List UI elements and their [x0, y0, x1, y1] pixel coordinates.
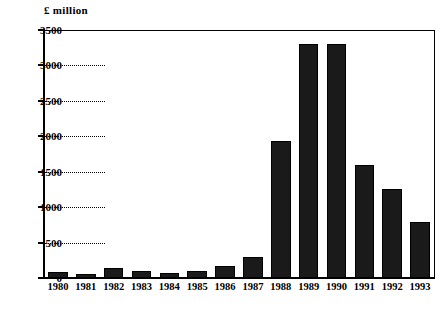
- bar-1986: [215, 266, 235, 278]
- x-tick-label-1992: 1992: [378, 281, 406, 292]
- bar-slot: [215, 30, 235, 278]
- bar-1991: [355, 165, 375, 278]
- bar-1988: [271, 141, 291, 278]
- bar-slot: [76, 30, 96, 278]
- x-tick-label-1980: 1980: [44, 281, 72, 292]
- x-tick-label-1988: 1988: [267, 281, 295, 292]
- bar-1984: [160, 273, 180, 278]
- bar-1983: [132, 271, 152, 278]
- x-tick-label-1989: 1989: [295, 281, 323, 292]
- x-tick-label-1982: 1982: [100, 281, 128, 292]
- x-tick-label-1987: 1987: [239, 281, 267, 292]
- bar-slot: [299, 30, 319, 278]
- y-axis-unit-label: £ million: [44, 4, 88, 16]
- x-axis-labels: 1980198119821983198419851986198719881989…: [44, 281, 434, 301]
- bar-1990: [327, 44, 347, 278]
- bars-layer: [44, 30, 434, 278]
- x-tick-label-1981: 1981: [72, 281, 100, 292]
- bar-1981: [76, 274, 96, 278]
- x-tick-label-1993: 1993: [406, 281, 434, 292]
- bar-slot: [355, 30, 375, 278]
- bar-1985: [187, 271, 207, 278]
- bar-1989: [299, 44, 319, 278]
- bar-1987: [243, 257, 263, 278]
- bar-slot: [187, 30, 207, 278]
- bar-1993: [410, 222, 430, 278]
- bar-1992: [382, 189, 402, 278]
- bar-slot: [104, 30, 124, 278]
- x-tick-label-1983: 1983: [128, 281, 156, 292]
- bar-1982: [104, 268, 124, 278]
- x-tick-label-1991: 1991: [350, 281, 378, 292]
- bar-slot: [271, 30, 291, 278]
- bar-slot: [132, 30, 152, 278]
- bar-slot: [410, 30, 430, 278]
- x-tick-label-1990: 1990: [323, 281, 351, 292]
- x-tick-label-1985: 1985: [183, 281, 211, 292]
- bar-slot: [382, 30, 402, 278]
- bar-1980: [48, 272, 68, 278]
- x-tick-label-1984: 1984: [155, 281, 183, 292]
- x-tick-label-1986: 1986: [211, 281, 239, 292]
- bar-slot: [160, 30, 180, 278]
- bar-chart: £ million 0500100015002000250030003500 1…: [0, 0, 443, 315]
- bar-slot: [243, 30, 263, 278]
- bar-slot: [327, 30, 347, 278]
- bar-slot: [48, 30, 68, 278]
